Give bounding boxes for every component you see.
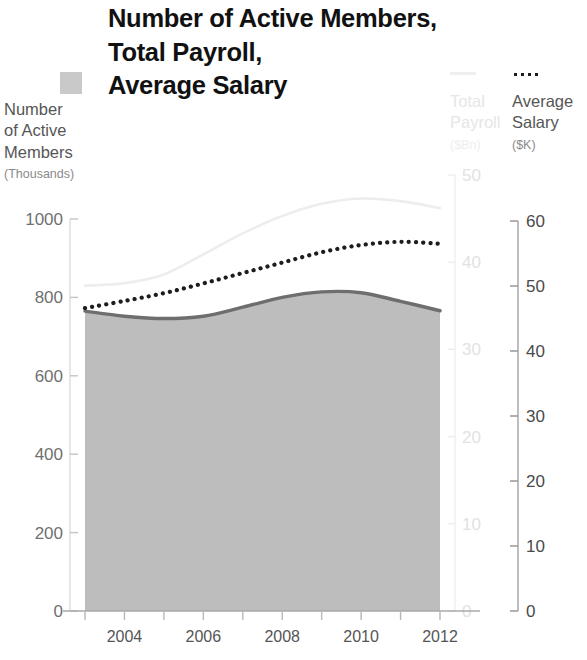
x-axis-years: 20042006200820102012 bbox=[63, 611, 480, 645]
y-axis-right-tick-label: 60 bbox=[526, 212, 545, 231]
y-axis-right-average-salary: 0102030405060 bbox=[510, 212, 545, 621]
chart-plot: 02004006008001000 01020304050 0102030405… bbox=[0, 0, 587, 660]
y-axis-right-tick-label: 20 bbox=[526, 472, 545, 491]
y-axis-middle-tick-label: 50 bbox=[462, 166, 481, 185]
y-axis-left-tick-label: 600 bbox=[35, 367, 63, 386]
x-axis-tick-label: 2012 bbox=[422, 628, 458, 645]
y-axis-right-tick-label: 10 bbox=[526, 537, 545, 556]
y-axis-middle-tick-label: 30 bbox=[462, 340, 481, 359]
y-axis-left-tick-label: 1000 bbox=[25, 210, 63, 229]
x-axis-tick-label: 2004 bbox=[107, 628, 143, 645]
y-axis-right-tick-label: 40 bbox=[526, 342, 545, 361]
chart-page: Number of Active Members, Total Payroll,… bbox=[0, 0, 587, 660]
x-axis-tick-label: 2006 bbox=[186, 628, 222, 645]
y-axis-left-tick-label: 0 bbox=[54, 602, 63, 621]
y-axis-middle-total-payroll: 01020304050 bbox=[448, 166, 481, 621]
y-axis-left-tick-label: 400 bbox=[35, 445, 63, 464]
y-axis-right-tick-label: 30 bbox=[526, 407, 545, 426]
y-axis-middle-tick-label: 10 bbox=[462, 515, 481, 534]
y-axis-left-tick-label: 200 bbox=[35, 524, 63, 543]
y-axis-left-members: 02004006008001000 bbox=[25, 210, 78, 621]
y-axis-right-tick-label: 0 bbox=[526, 602, 535, 621]
x-axis-tick-label: 2010 bbox=[343, 628, 379, 645]
y-axis-left-tick-label: 800 bbox=[35, 288, 63, 307]
y-axis-middle-tick-label: 40 bbox=[462, 253, 481, 272]
y-axis-right-tick-label: 50 bbox=[526, 277, 545, 296]
y-axis-middle-tick-label: 20 bbox=[462, 428, 481, 447]
x-axis-tick-label: 2008 bbox=[264, 628, 300, 645]
series-area-number-of-active-members bbox=[85, 291, 440, 611]
